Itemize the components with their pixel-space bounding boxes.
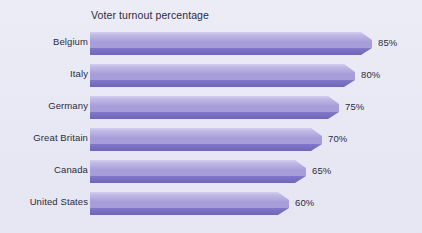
- bar-chart: Voter turnout percentage Belgium: [0, 0, 422, 233]
- chart-title: Voter turnout percentage: [91, 9, 209, 21]
- category-label: Great Britain: [0, 132, 88, 143]
- category-label: Canada: [0, 164, 88, 175]
- category-label: Italy: [0, 68, 88, 79]
- bar: [90, 192, 291, 215]
- bar: [90, 128, 324, 151]
- bar: [90, 32, 374, 55]
- bar-row: Italy 80%: [0, 64, 422, 87]
- value-label: 75%: [345, 101, 364, 112]
- bar: [90, 96, 341, 119]
- plot-area: Belgium 85%: [0, 28, 422, 228]
- bar: [90, 160, 308, 183]
- value-label: 60%: [295, 197, 314, 208]
- value-label: 70%: [328, 133, 347, 144]
- category-label: Belgium: [0, 36, 88, 47]
- value-label: 85%: [378, 37, 397, 48]
- value-label: 65%: [312, 165, 331, 176]
- category-label: Germany: [0, 100, 88, 111]
- value-label: 80%: [361, 69, 380, 80]
- bar-row: Germany 75%: [0, 96, 422, 119]
- bar-row: United States: [0, 192, 422, 215]
- bar-row: Canada 65%: [0, 160, 422, 183]
- category-label: United States: [0, 196, 88, 207]
- bar-row: Great Britain: [0, 128, 422, 151]
- bar-row: Belgium 85%: [0, 32, 422, 55]
- bar: [90, 64, 357, 87]
